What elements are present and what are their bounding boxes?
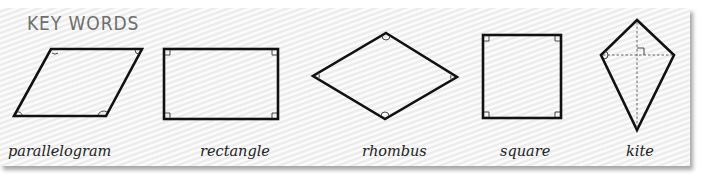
parallelogram-shape xyxy=(14,49,142,116)
rectangle-shape xyxy=(164,49,278,119)
label-square: square xyxy=(500,143,550,159)
label-parallelogram: parallelogram xyxy=(8,143,111,159)
rhombus-shape xyxy=(313,33,457,119)
kite-shape xyxy=(601,20,674,130)
label-kite: kite xyxy=(626,143,654,159)
label-rhombus: rhombus xyxy=(362,143,427,159)
square-shape xyxy=(483,35,561,118)
label-rectangle: rectangle xyxy=(200,143,270,159)
